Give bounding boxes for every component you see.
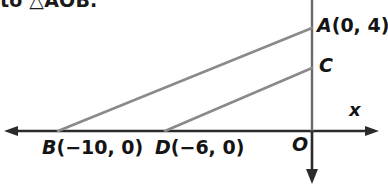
segment-BA xyxy=(58,28,312,131)
x-axis-left-arrowhead xyxy=(4,126,18,136)
y-axis-down-arrowhead xyxy=(306,169,318,184)
point-label-c: C xyxy=(319,56,333,75)
origin-label: O xyxy=(292,135,308,154)
diagram-canvas: to △AOB. A(0, 4) C x B(−10, 0) D(−6, 0) … xyxy=(0,0,388,186)
point-label-d-coords: (−6, 0) xyxy=(171,136,245,158)
point-label-a: A(0, 4) xyxy=(317,16,388,35)
point-label-b-coords: (−10, 0) xyxy=(56,136,143,158)
x-axis-label: x xyxy=(349,101,361,119)
point-label-a-letter: A xyxy=(317,14,332,36)
point-label-b-letter: B xyxy=(42,136,56,158)
point-label-a-coords: (0, 4) xyxy=(332,14,388,36)
point-label-d-letter: D xyxy=(155,136,171,158)
x-axis-right-arrowhead xyxy=(365,126,379,136)
point-label-b: B(−10, 0) xyxy=(42,138,143,157)
point-label-d: D(−6, 0) xyxy=(155,138,244,157)
